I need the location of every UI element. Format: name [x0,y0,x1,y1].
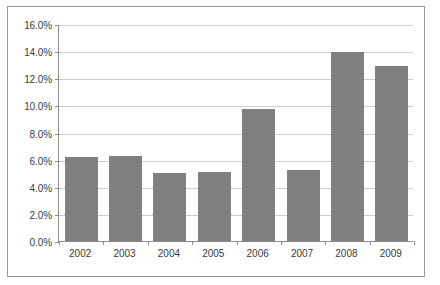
x-tick-mark [325,241,326,245]
y-tick-mark [55,215,59,216]
y-tick-label: 8.0% [30,128,52,139]
bar [109,156,142,241]
gridline [59,25,413,26]
x-tick-label: 2002 [58,248,102,259]
y-tick-label: 14.0% [24,47,52,58]
bar [331,52,364,241]
chart-frame: 0.0%2.0%4.0%6.0%8.0%10.0%12.0%14.0%16.0%… [7,6,425,277]
y-tick-label: 12.0% [24,74,52,85]
y-tick-mark [55,52,59,53]
x-tick-label: 2006 [236,248,280,259]
y-tick-label: 0.0% [30,237,52,248]
x-tick-mark [370,241,371,245]
x-tick-label: 2003 [102,248,146,259]
x-tick-label: 2005 [191,248,235,259]
y-tick-mark [55,79,59,80]
y-tick-mark [55,134,59,135]
x-tick-mark [237,241,238,245]
plot-area: 0.0%2.0%4.0%6.0%8.0%10.0%12.0%14.0%16.0% [58,25,413,242]
x-tick-label: 2008 [324,248,368,259]
x-tick-mark [414,241,415,245]
y-tick-mark [55,188,59,189]
y-tick-label: 10.0% [24,101,52,112]
y-tick-label: 16.0% [24,20,52,31]
y-tick-label: 6.0% [30,155,52,166]
y-tick-label: 4.0% [30,182,52,193]
x-tick-label: 2009 [369,248,413,259]
x-tick-mark [281,241,282,245]
y-tick-mark [55,25,59,26]
y-tick-label: 2.0% [30,209,52,220]
x-tick-mark [148,241,149,245]
y-tick-mark [55,161,59,162]
bar [65,157,98,241]
bar [287,170,320,241]
bar [375,66,408,241]
x-tick-mark [103,241,104,245]
y-tick-mark [55,106,59,107]
bar [242,109,275,241]
x-tick-label: 2007 [280,248,324,259]
x-tick-label: 2004 [147,248,191,259]
x-tick-mark [192,241,193,245]
bar [198,172,231,241]
bar [153,173,186,241]
x-tick-mark [59,241,60,245]
